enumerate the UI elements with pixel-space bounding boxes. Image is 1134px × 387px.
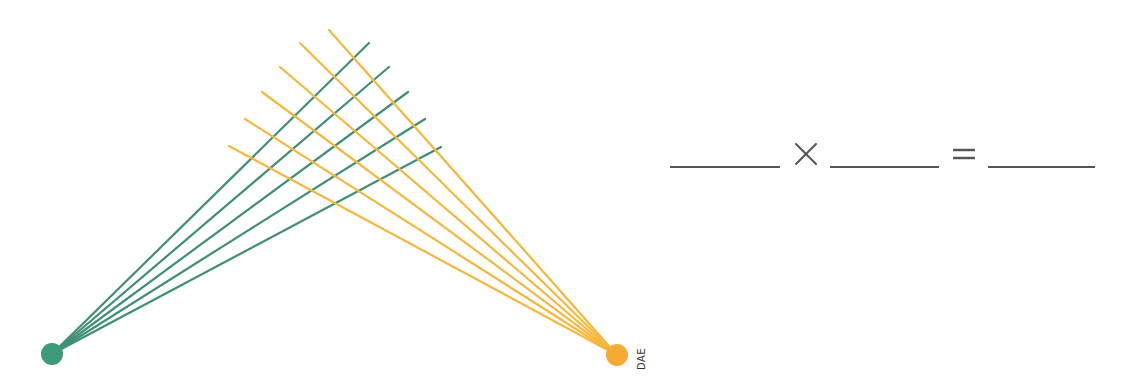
factor-2-blank[interactable] (830, 166, 939, 168)
right-node-label: DAE (636, 348, 647, 370)
green-line (52, 67, 389, 354)
orange-line (262, 92, 617, 355)
orange-line (300, 43, 617, 355)
times-symbol (796, 144, 816, 164)
equals-symbol (953, 150, 975, 158)
orange-line (245, 119, 617, 355)
product-blank[interactable] (988, 166, 1095, 168)
orange-line-group (229, 30, 617, 355)
green-line (52, 119, 425, 354)
orange-line (329, 30, 617, 355)
line-crossing-diagram (0, 0, 1134, 387)
green-line (52, 43, 369, 354)
orange-line (280, 67, 617, 355)
orange-node (606, 344, 628, 366)
green-node (41, 343, 63, 365)
factor-1-blank[interactable] (670, 166, 780, 168)
green-line (52, 147, 441, 354)
orange-line (229, 146, 617, 355)
